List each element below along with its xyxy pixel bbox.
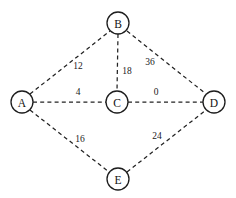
node-e-label: E <box>114 174 121 186</box>
node-a[interactable]: A <box>11 91 33 113</box>
edge-label-b-c: 18 <box>122 66 132 76</box>
nodes-group: A B C D E <box>11 12 225 190</box>
edge-label-a-b: 12 <box>73 61 83 71</box>
edge-a-e <box>30 110 109 172</box>
node-a-label: A <box>18 97 27 109</box>
node-c-label: C <box>113 97 121 109</box>
node-e[interactable]: E <box>107 168 129 190</box>
edge-b-d <box>127 31 206 94</box>
node-d[interactable]: D <box>203 91 225 113</box>
edge-label-a-c: 4 <box>76 87 81 97</box>
edge-label-a-e: 16 <box>75 134 85 144</box>
node-b[interactable]: B <box>107 12 129 34</box>
edge-b-c <box>117 34 118 91</box>
edge-e-d <box>127 110 206 172</box>
edge-label-c-d: 0 <box>154 87 159 97</box>
node-c[interactable]: C <box>106 91 128 113</box>
edge-label-e-d: 24 <box>152 131 162 141</box>
node-b-label: B <box>114 18 122 30</box>
graph-canvas: 12 18 36 4 0 16 24 A B C D <box>0 0 236 198</box>
node-d-label: D <box>210 97 218 109</box>
edge-label-b-d: 36 <box>145 57 155 67</box>
graph-diagram: 12 18 36 4 0 16 24 A B C D <box>0 0 236 198</box>
edge-a-b <box>30 31 110 94</box>
